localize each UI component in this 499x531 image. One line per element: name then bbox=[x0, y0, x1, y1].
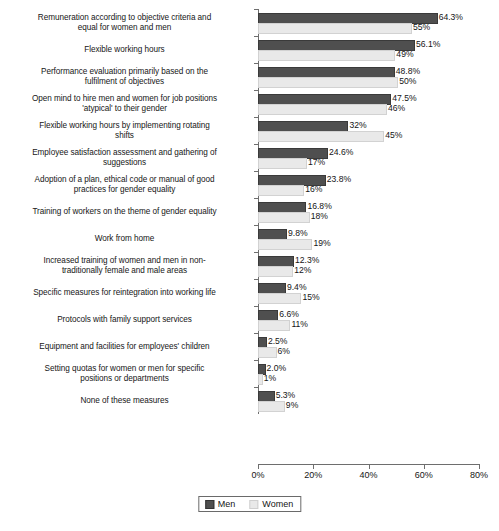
category-axis-tick bbox=[254, 144, 259, 145]
category-axis-tick bbox=[254, 90, 259, 91]
bars-cell: 47.5%46% bbox=[258, 90, 499, 117]
category-axis-tick bbox=[254, 36, 259, 37]
bars-cell: 23.8%16% bbox=[258, 171, 499, 198]
value-axis-tick-label: 0% bbox=[251, 470, 264, 480]
category-axis-tick bbox=[254, 63, 259, 64]
category-label-line: Performance evaluation primarily based o… bbox=[41, 67, 208, 77]
category-axis-tick bbox=[254, 225, 259, 226]
legend-item-women: Women bbox=[249, 499, 293, 509]
bars-cell: 9.8%19% bbox=[258, 225, 499, 252]
bar-value-men: 12.3% bbox=[295, 256, 319, 265]
category-label: Adoption of a plan, ethical code or manu… bbox=[0, 171, 258, 198]
bar-value-men: 23.8% bbox=[327, 175, 351, 184]
bar-value-women: 55% bbox=[413, 23, 430, 32]
category-label: Flexible working hours bbox=[0, 36, 258, 63]
category-label: Performance evaluation primarily based o… bbox=[0, 63, 258, 90]
category-label-line: Increased training of women and men in n… bbox=[43, 256, 205, 266]
chart-row: Performance evaluation primarily based o… bbox=[0, 63, 499, 90]
category-label-line: equal for women and men bbox=[78, 23, 172, 33]
value-axis-tick bbox=[479, 464, 480, 469]
bars-cell: 2.0%1% bbox=[258, 360, 499, 387]
chart-row: Flexible working hours56.1%49% bbox=[0, 36, 499, 63]
category-axis-tick bbox=[254, 252, 259, 253]
category-axis-tick bbox=[254, 279, 259, 280]
chart-row: Increased training of women and men in n… bbox=[0, 252, 499, 279]
category-label-line: fulfilment of objectives bbox=[85, 77, 164, 87]
category-label: Protocols with family support services bbox=[0, 306, 258, 333]
bar-value-men: 64.3% bbox=[439, 13, 463, 22]
chart-rows: Remuneration according to objective crit… bbox=[0, 9, 499, 414]
bar-value-men: 16.8% bbox=[307, 202, 331, 211]
bar-women bbox=[258, 347, 277, 358]
category-label: Specific measures for reintegration into… bbox=[0, 279, 258, 306]
bar-value-women: 16% bbox=[305, 185, 322, 194]
bar-women bbox=[258, 185, 304, 196]
bar-women bbox=[258, 293, 301, 304]
value-axis-tick bbox=[369, 464, 370, 469]
chart-row: Setting quotas for women or men for spec… bbox=[0, 360, 499, 387]
category-label-line: shifts bbox=[115, 131, 134, 141]
category-label-line: Remuneration according to objective crit… bbox=[38, 13, 211, 23]
category-label: Remuneration according to objective crit… bbox=[0, 9, 258, 36]
category-label-line: Employee satisfaction assessment and gat… bbox=[32, 148, 217, 158]
bar-value-women: 19% bbox=[313, 239, 330, 248]
category-label-line: Open mind to hire men and women for job … bbox=[32, 94, 217, 104]
category-label: Increased training of women and men in n… bbox=[0, 252, 258, 279]
category-axis-tick bbox=[254, 198, 259, 199]
chart-row: Specific measures for reintegration into… bbox=[0, 279, 499, 306]
bars-cell: 5.3%9% bbox=[258, 387, 499, 414]
bar-value-women: 12% bbox=[294, 266, 311, 275]
category-label-line: Equipment and facilities for employees' … bbox=[39, 342, 209, 352]
category-label: None of these measures bbox=[0, 387, 258, 414]
value-axis-tick bbox=[424, 464, 425, 469]
bar-value-men: 9.4% bbox=[287, 283, 307, 292]
category-axis-tick bbox=[254, 9, 259, 10]
legend-swatch-women-icon bbox=[249, 500, 258, 509]
category-axis-tick bbox=[254, 333, 259, 334]
chart-row: Open mind to hire men and women for job … bbox=[0, 90, 499, 117]
chart-row: Training of workers on the theme of gend… bbox=[0, 198, 499, 225]
bar-women bbox=[258, 239, 312, 250]
value-axis-tick bbox=[258, 464, 259, 469]
category-label-line: positions or departments bbox=[80, 374, 168, 384]
bar-value-men: 6.6% bbox=[279, 310, 299, 319]
bars-cell: 9.4%15% bbox=[258, 279, 499, 306]
category-label-line: Specific measures for reintegration into… bbox=[33, 288, 216, 298]
bar-value-women: 15% bbox=[302, 293, 319, 302]
value-axis-tick-label: 40% bbox=[359, 470, 377, 480]
bar-value-women: 11% bbox=[291, 320, 308, 329]
category-label: Employee satisfaction assessment and gat… bbox=[0, 144, 258, 171]
category-axis-tick bbox=[254, 360, 259, 361]
category-label-line: traditionally female and male areas bbox=[62, 266, 187, 276]
chart-row: None of these measures5.3%9% bbox=[0, 387, 499, 414]
category-label-line: suggestions bbox=[103, 158, 146, 168]
bars-cell: 64.3%55% bbox=[258, 9, 499, 36]
bar-value-women: 1% bbox=[264, 374, 276, 383]
bars-cell: 56.1%49% bbox=[258, 36, 499, 63]
category-label: Training of workers on the theme of gend… bbox=[0, 198, 258, 225]
category-label: Open mind to hire men and women for job … bbox=[0, 90, 258, 117]
bar-women bbox=[258, 374, 263, 385]
value-axis-tick bbox=[313, 464, 314, 469]
bar-women bbox=[258, 77, 398, 88]
bars-cell: 12.3%12% bbox=[258, 252, 499, 279]
plot-area: Remuneration according to objective crit… bbox=[0, 0, 499, 470]
bar-value-men: 47.5% bbox=[392, 94, 416, 103]
legend-label-men: Men bbox=[218, 499, 236, 509]
legend-label-women: Women bbox=[262, 499, 293, 509]
bar-value-men: 5.3% bbox=[276, 391, 296, 400]
category-label-line: Flexible working hours by implementing r… bbox=[39, 121, 210, 131]
category-axis-tick bbox=[254, 171, 259, 172]
chart-row: Equipment and facilities for employees' … bbox=[0, 333, 499, 360]
bars-cell: 6.6%11% bbox=[258, 306, 499, 333]
bar-value-men: 9.8% bbox=[288, 229, 308, 238]
figure-caption bbox=[14, 524, 488, 531]
legend-swatch-men-icon bbox=[205, 500, 214, 509]
bar-women bbox=[258, 158, 307, 169]
chart-row: Flexible working hours by implementing r… bbox=[0, 117, 499, 144]
value-axis-tick-label: 80% bbox=[470, 470, 488, 480]
bar-value-women: 6% bbox=[278, 347, 290, 356]
chart-legend: Men Women bbox=[198, 496, 301, 512]
bar-value-men: 2.5% bbox=[268, 337, 288, 346]
bar-women bbox=[258, 401, 285, 412]
